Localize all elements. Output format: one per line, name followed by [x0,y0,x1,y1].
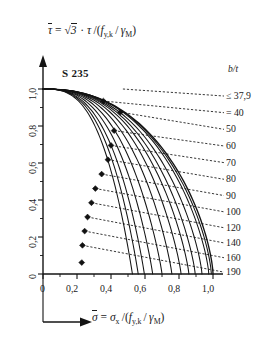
data-point-marker [108,143,114,149]
data-point-marker [80,242,86,248]
x-axis-tick-label: 0,8 [168,283,180,294]
bt-ratio-label: 190 [226,266,241,277]
data-point-marker [82,228,88,234]
data-point-marker [99,171,105,177]
bt-ratio-label: 140 [226,237,241,248]
x-axis-tick-label: 0,2 [66,283,78,294]
data-point-markers-layer [79,98,123,265]
bt-ratio-label: 100 [226,206,241,217]
y-axis-tick-label: 0,2 [27,236,38,248]
leader-line [114,131,224,146]
interaction-curve [43,89,211,274]
x-axis-tick-label: 1,0 [202,283,214,294]
bt-ratio-label: 70 [226,157,236,168]
interaction-curve [43,89,162,274]
interaction-curve [43,89,172,274]
y-axis-tick-label: 0 [27,274,38,279]
interaction-curve [43,89,181,274]
leader-line [111,145,224,162]
x-axis-tick-label: 0 [40,283,45,294]
bt-ratio-label: 60 [226,140,236,151]
interaction-curve [43,89,153,274]
x-axis-tick-label: 0,4 [100,283,112,294]
bt-ratio-label: 160 [226,252,241,263]
x-label-arrowhead [80,318,92,327]
y-axis-tick-label: 0,8 [27,125,38,137]
data-point-marker [105,157,111,163]
data-point-marker [79,260,85,266]
data-point-marker [85,214,91,220]
bt-ratio-label: 50 [226,123,236,134]
curves-layer [43,89,213,274]
bt-ratio-label: ≤ 37,9 [226,90,251,101]
bt-ratio-label: = 40 [226,107,244,118]
bt-ratio-label: 90 [226,190,236,201]
y-axis-arrowhead [39,55,47,67]
bt-ratio-label: 80 [226,173,236,184]
y-axis-tick-label: 0,6 [27,162,38,174]
figure-root: τ = √3 · τ /(fy,k / γM) σ = σx /(fy,k / … [0,0,265,352]
x-axis-tick-label: 0,6 [134,283,146,294]
y-axis-tick-label: 0,4 [27,199,38,211]
data-point-marker [92,186,98,192]
bt-ratio-label: 120 [226,222,241,233]
leader-line [123,89,224,96]
leader-line [82,245,224,272]
data-point-marker [89,200,95,206]
y-axis-tick-label: 1,0 [27,88,38,100]
